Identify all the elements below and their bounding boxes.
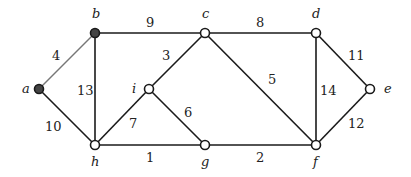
edge-weight-c-i: 3: [162, 48, 170, 63]
edge-c-i: [149, 33, 205, 89]
edge-weight-a-b: 4: [52, 48, 60, 63]
node-b: [91, 29, 100, 38]
edge-weight-b-h: 13: [77, 83, 94, 98]
node-label-g: g: [201, 154, 209, 169]
edge-weight-d-e: 11: [348, 48, 365, 63]
edge-weight-g-f: 2: [256, 150, 264, 165]
node-g: [201, 141, 210, 150]
edge-weight-c-d: 8: [256, 15, 264, 30]
edge-a-b: [39, 33, 95, 89]
node-f: [312, 141, 321, 150]
edge-i-g: [149, 89, 205, 145]
edge-weight-c-f: 5: [268, 72, 276, 87]
node-h: [91, 141, 100, 150]
node-a: [35, 85, 44, 94]
node-label-h: h: [91, 154, 99, 169]
node-label-b: b: [92, 6, 100, 21]
node-label-i: i: [132, 81, 136, 96]
node-c: [201, 29, 210, 38]
edge-c-f: [205, 33, 316, 145]
edge-weight-b-c: 9: [146, 15, 154, 30]
node-label-c: c: [202, 6, 210, 21]
node-i: [145, 85, 154, 94]
edge-weight-h-g: 1: [146, 150, 154, 165]
node-label-e: e: [384, 81, 392, 96]
edge-weight-d-f: 14: [320, 83, 337, 98]
edge-weight-i-h: 7: [129, 116, 137, 131]
node-label-d: d: [312, 6, 320, 21]
node-e: [366, 85, 375, 94]
edge-i-h: [95, 89, 149, 145]
node-label-f: f: [312, 154, 320, 169]
edge-weight-f-e: 12: [348, 116, 365, 131]
node-d: [312, 29, 321, 38]
node-label-a: a: [22, 81, 30, 96]
edge-weight-i-g: 6: [184, 105, 192, 120]
weighted-graph: 4109138357612141112 abcdeihgf: [0, 0, 411, 177]
edge-weight-a-h: 10: [45, 119, 62, 134]
